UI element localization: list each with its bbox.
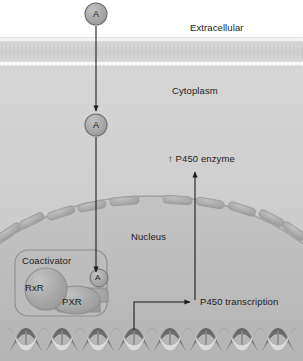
label-ligand-bound: A xyxy=(95,273,100,282)
cell-signaling-diagram: Extracellular Cytoplasm Nucleus ↑ P450 e… xyxy=(0,0,303,361)
label-extracellular: Extracellular xyxy=(190,22,244,33)
label-rxr: RxR xyxy=(25,282,44,293)
label-p450-enzyme: ↑ P450 enzyme xyxy=(168,153,235,164)
plasma-membrane xyxy=(0,37,303,66)
label-pxr: PXR xyxy=(62,296,82,307)
label-ligand-cytoplasm: A xyxy=(93,120,99,130)
label-p450-transcription: P450 transcription xyxy=(200,296,278,307)
label-nucleus: Nucleus xyxy=(131,231,166,242)
label-cytoplasm: Cytoplasm xyxy=(172,85,218,96)
label-ligand-extracellular: A xyxy=(93,9,99,19)
label-coactivator: Coactivator xyxy=(22,255,71,266)
